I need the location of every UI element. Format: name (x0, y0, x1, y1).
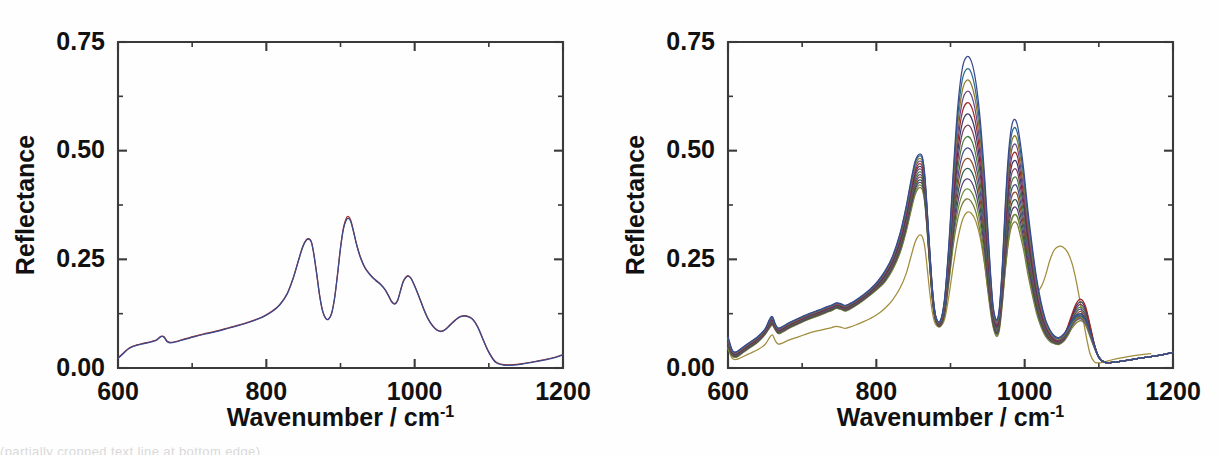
x-tick-label: 600 (707, 377, 749, 405)
x-tick-label: 1200 (1145, 377, 1201, 405)
y-tick-label: 0.00 (56, 353, 105, 381)
spectrum-line (728, 212, 1151, 363)
y-tick-label: 0.50 (666, 135, 715, 163)
panel-right: 0.000.250.500.7560080010001200Reflectanc… (610, 0, 1219, 455)
y-tick-label: 0.25 (56, 244, 105, 272)
figure-root: 0.000.250.500.7560080010001200Reflectanc… (0, 0, 1219, 455)
y-tick-label: 0.50 (56, 135, 105, 163)
x-axis-title: Wavenumber / cm-1 (837, 403, 1064, 431)
spectrum-line (728, 148, 1173, 363)
y-tick-label: 0.25 (666, 244, 715, 272)
y-tick-label: 0.00 (666, 353, 715, 381)
spectrum-line (118, 216, 563, 365)
series-group-right (728, 56, 1173, 363)
x-tick-label: 1200 (535, 377, 591, 405)
x-axis-title: Wavenumber / cm-1 (227, 403, 454, 431)
x-tick-label: 800 (855, 377, 897, 405)
y-axis-title: Reflectance (11, 135, 39, 275)
plot-left: 0.000.250.500.7560080010001200Reflectanc… (0, 0, 609, 455)
y-tick-label: 0.75 (56, 27, 105, 55)
spectrum-line (728, 56, 1173, 362)
panel-left: 0.000.250.500.7560080010001200Reflectanc… (0, 0, 609, 455)
y-tick-label: 0.75 (666, 27, 715, 55)
axes-left (118, 42, 563, 368)
labels-left: 0.000.250.500.7560080010001200Reflectanc… (11, 27, 591, 431)
x-tick-label: 1000 (997, 377, 1053, 405)
x-tick-label: 1000 (387, 377, 443, 405)
labels-right: 0.000.250.500.7560080010001200Reflectanc… (621, 27, 1201, 431)
series-group-left (118, 216, 563, 365)
caption-sliver: (partially cropped text line at bottom e… (0, 444, 1219, 455)
x-tick-label: 800 (245, 377, 287, 405)
plot-right: 0.000.250.500.7560080010001200Reflectanc… (610, 0, 1219, 455)
spectrum-line (728, 137, 1173, 363)
y-axis-title: Reflectance (621, 135, 649, 275)
axes-right (728, 42, 1173, 368)
spectrum-line (118, 218, 563, 365)
x-tick-label: 600 (97, 377, 139, 405)
